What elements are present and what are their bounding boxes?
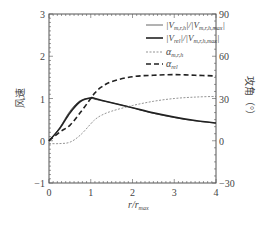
legend-label-3: αm,r,h bbox=[166, 46, 183, 58]
y-left-tick-label: 2 bbox=[40, 51, 45, 62]
chart: 01234−10123−300306090 |Vm,r,h|/|Vm,r,h,m… bbox=[0, 0, 267, 227]
y-right-tick-label: 60 bbox=[219, 51, 229, 62]
x-tick-label: 4 bbox=[214, 187, 219, 198]
y-right-tick-label: 0 bbox=[219, 136, 224, 147]
x-tick-label: 2 bbox=[130, 187, 135, 198]
y-axis-left-title: 风速 bbox=[15, 88, 26, 108]
series-line-2 bbox=[49, 98, 216, 141]
x-tick-label: 0 bbox=[47, 187, 52, 198]
y-left-tick-label: 0 bbox=[40, 136, 45, 147]
y-left-tick-label: −1 bbox=[34, 178, 45, 189]
y-left-tick-label: 1 bbox=[40, 94, 45, 105]
x-tick-label: 3 bbox=[172, 187, 177, 198]
legend-label-2: |Vrel|/|Vm,r,h,max| bbox=[166, 33, 219, 44]
y-right-tick-label: 90 bbox=[219, 9, 229, 20]
series-group bbox=[49, 75, 216, 144]
legend: |Vm,r,h|/|Vm,r,h,max| |Vrel|/|Vm,r,h,max… bbox=[146, 20, 225, 70]
y-right-tick-label: −30 bbox=[219, 178, 235, 189]
y-axis-right-title: 攻角（°） bbox=[244, 76, 256, 120]
legend-label-4: αrel bbox=[166, 58, 178, 70]
x-tick-label: 1 bbox=[88, 187, 93, 198]
y-right-tick-label: 30 bbox=[219, 94, 229, 105]
x-axis-title: r/rmax bbox=[128, 199, 149, 211]
y-left-tick-label: 3 bbox=[40, 9, 45, 20]
